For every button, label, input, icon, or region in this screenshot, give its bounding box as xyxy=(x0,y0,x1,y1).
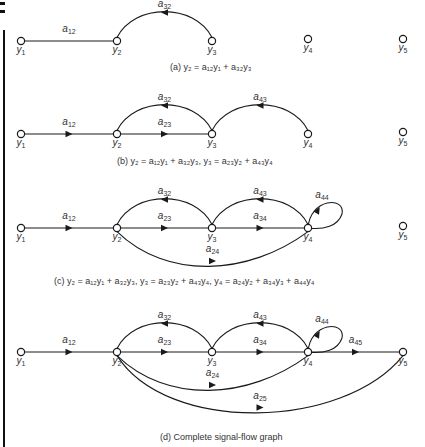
arrow-a12 xyxy=(66,349,73,355)
arrow-a32 xyxy=(161,320,168,326)
gain-label-a43: a43 xyxy=(253,185,266,197)
arrow-a32 xyxy=(161,9,168,15)
gain-label-a43: a43 xyxy=(253,91,266,103)
arrow-a12 xyxy=(66,225,73,231)
node-label-y3: y3 xyxy=(207,137,217,149)
node-label-y1: y1 xyxy=(16,137,26,149)
arrow-a12 xyxy=(66,131,73,137)
node-label-y5: y5 xyxy=(398,135,408,147)
arrow-a24 xyxy=(209,258,216,264)
gain-label-a43: a43 xyxy=(253,309,266,321)
edge-a44 xyxy=(308,326,342,352)
gain-label-a23: a23 xyxy=(158,210,171,222)
gain-label-a32: a32 xyxy=(158,185,171,197)
arrow-a23 xyxy=(161,225,168,231)
arrow-a23 xyxy=(161,349,168,355)
edge-a44 xyxy=(308,202,342,228)
signal-flow-diagram: a12a32y1y2y3y4y5(a) y₂ = a₁₂y₁ + a₃₂y₃a1… xyxy=(0,0,425,447)
arrow-a43 xyxy=(257,320,264,326)
gain-label-a25: a25 xyxy=(253,390,266,402)
arrow-a43 xyxy=(257,196,264,202)
node-label-y4: y4 xyxy=(303,137,313,149)
node-label-y3: y3 xyxy=(207,231,217,243)
caption-d: (d) Complete signal-flow graph xyxy=(160,432,283,442)
arrow-a32 xyxy=(161,102,168,108)
gain-label-a34: a34 xyxy=(253,210,266,222)
arrow-a34 xyxy=(257,349,264,355)
gain-label-a32: a32 xyxy=(158,91,171,103)
node-label-y4: y4 xyxy=(303,355,313,367)
node-label-y2: y2 xyxy=(112,137,122,149)
caption-a: (a) y₂ = a₁₂y₁ + a₃₂y₃ xyxy=(170,62,252,72)
node-label-y4: y4 xyxy=(303,42,313,54)
gain-label-a24: a24 xyxy=(206,367,219,379)
gain-label-a44: a44 xyxy=(315,313,328,325)
frame-corner-mark xyxy=(0,2,5,5)
arrow-a34 xyxy=(257,225,264,231)
node-label-y3: y3 xyxy=(207,355,217,367)
caption-c: (c) y₂ = a₁₂y₁ + a₃₂y₃, y₃ = a₂₃y₂ + a₄₃… xyxy=(54,276,315,286)
node-label-y1: y1 xyxy=(16,231,26,243)
gain-label-a32: a32 xyxy=(158,0,171,10)
node-label-y3: y3 xyxy=(207,44,217,56)
edge-a43 xyxy=(212,105,308,131)
gain-label-a44: a44 xyxy=(315,189,328,201)
node-label-y4: y4 xyxy=(303,231,313,243)
edge-a25 xyxy=(117,356,403,413)
edge-a32 xyxy=(117,12,212,38)
arrow-a45 xyxy=(352,349,359,355)
node-label-y2: y2 xyxy=(112,231,122,243)
caption-b: (b) y₂ = a₁₂y₁ + a₃₂y₃, y₃ = a₂₃y₂ + a₄₃… xyxy=(117,156,273,166)
gain-label-a45: a45 xyxy=(349,334,362,346)
gain-label-a23: a23 xyxy=(158,116,171,128)
arrow-a25 xyxy=(257,404,264,410)
node-label-y1: y1 xyxy=(16,44,26,56)
gain-label-a12: a12 xyxy=(62,23,75,35)
gain-label-a24: a24 xyxy=(206,243,219,255)
arrow-a43 xyxy=(257,102,264,108)
gain-label-a12: a12 xyxy=(62,334,75,346)
node-label-y5: y5 xyxy=(398,229,408,241)
gain-label-a12: a12 xyxy=(62,210,75,222)
arrow-a23 xyxy=(161,131,168,137)
node-label-y2: y2 xyxy=(112,355,122,367)
node-label-y1: y1 xyxy=(16,355,26,367)
node-label-y2: y2 xyxy=(112,44,122,56)
gain-label-a34: a34 xyxy=(253,334,266,346)
frame-corner-mark xyxy=(0,10,5,13)
arrow-a32 xyxy=(161,196,168,202)
node-label-y5: y5 xyxy=(398,42,408,54)
arrow-a24 xyxy=(209,382,216,388)
gain-label-a32: a32 xyxy=(158,309,171,321)
gain-label-a12: a12 xyxy=(62,116,75,128)
gain-label-a23: a23 xyxy=(158,334,171,346)
node-label-y5: y5 xyxy=(398,355,408,367)
